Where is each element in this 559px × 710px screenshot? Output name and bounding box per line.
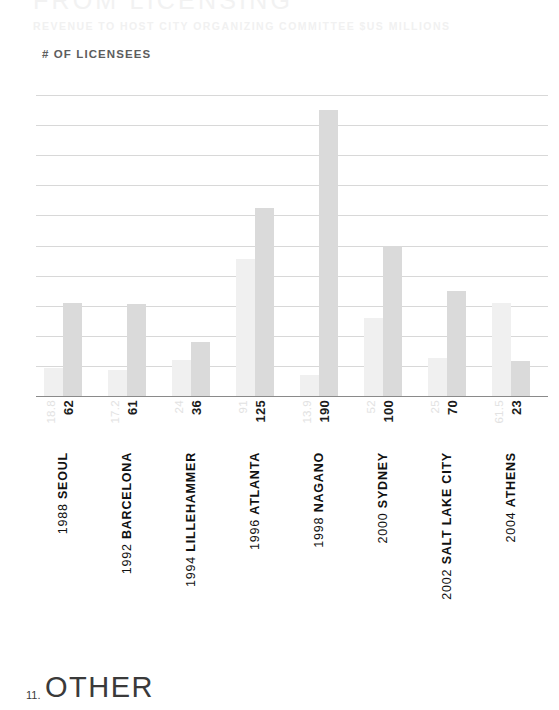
category-label-atlanta: 1996 ATLANTA xyxy=(248,452,262,550)
bar-revenue xyxy=(492,303,511,396)
bar-revenue xyxy=(172,360,191,396)
value-label-licensees: 190 xyxy=(317,400,332,423)
value-label-group: 61.523 xyxy=(492,400,530,448)
value-label-revenue: 17.2 xyxy=(109,400,121,424)
bar-revenue xyxy=(44,368,63,396)
category-city: ATHENS xyxy=(504,452,518,507)
value-label-licensees: 62 xyxy=(61,400,76,415)
bar-revenue xyxy=(428,358,447,396)
bar-group xyxy=(172,95,210,396)
category-year: 2002 xyxy=(440,564,454,599)
value-label-licensees: 100 xyxy=(381,400,396,423)
bar-revenue xyxy=(108,370,127,396)
bar-group xyxy=(428,95,466,396)
category-label-athens: 2004 ATHENS xyxy=(504,452,518,543)
value-label-group: 17.261 xyxy=(108,400,146,448)
category-label-sydney: 2000 SYDNEY xyxy=(376,452,390,544)
value-label-revenue: 91 xyxy=(237,400,249,413)
category-city: NAGANO xyxy=(312,452,326,512)
bar-licensees xyxy=(511,361,530,396)
value-label-revenue: 25 xyxy=(429,400,441,413)
bar-revenue xyxy=(364,318,383,396)
category-year: 2000 xyxy=(376,508,390,543)
bar-licensees xyxy=(191,342,210,396)
value-label-revenue: 24 xyxy=(173,400,185,413)
value-label-revenue: 18.8 xyxy=(45,400,57,424)
category-city: BARCELONA xyxy=(120,452,134,539)
value-label-group: 2570 xyxy=(428,400,466,448)
value-label-licensees: 61 xyxy=(125,400,140,415)
page-title: FROM LICENSING xyxy=(33,0,293,15)
bar-group xyxy=(236,95,274,396)
bar-group xyxy=(364,95,402,396)
footer: 11. OTHER xyxy=(0,665,559,710)
footer-section-number: 11. xyxy=(26,689,40,701)
category-year: 1988 xyxy=(56,499,70,534)
bar-group xyxy=(44,95,82,396)
bar-group xyxy=(108,95,146,396)
value-label-licensees: 125 xyxy=(253,400,268,423)
chart-plot-area xyxy=(36,95,548,396)
value-label-group: 52100 xyxy=(364,400,402,448)
value-label-group: 18.862 xyxy=(44,400,82,448)
value-label-revenue: 52 xyxy=(365,400,377,413)
bar-licensees xyxy=(319,110,338,396)
category-label-lillehammer: 1994 LILLEHAMMER xyxy=(184,452,198,587)
category-year: 1998 xyxy=(312,512,326,547)
value-label-group: 91125 xyxy=(236,400,274,448)
bar-value-labels: 18.86217.26124369112513.919052100257061.… xyxy=(36,400,548,448)
value-label-revenue: 61.5 xyxy=(493,400,505,424)
bar-licensees xyxy=(63,303,82,396)
category-city: LILLEHAMMER xyxy=(184,452,198,552)
value-label-licensees: 23 xyxy=(509,400,524,415)
bar-licensees xyxy=(383,246,402,397)
value-label-licensees: 36 xyxy=(189,400,204,415)
x-axis-category-labels: 1988 SEOUL1992 BARCELONA1994 LILLEHAMMER… xyxy=(36,452,548,597)
bar-revenue xyxy=(236,259,255,396)
category-label-nagano: 1998 NAGANO xyxy=(312,452,326,548)
category-label-salt-lake-city: 2002 SALT LAKE CITY xyxy=(440,452,454,600)
category-year: 1996 xyxy=(248,515,262,550)
category-city: SYDNEY xyxy=(376,452,390,508)
chart-subtitle: REVENUE TO HOST CITY ORGANIZING COMMITTE… xyxy=(33,20,450,32)
category-label-seoul: 1988 SEOUL xyxy=(56,452,70,534)
bar-revenue xyxy=(300,375,319,396)
category-label-barcelona: 1992 BARCELONA xyxy=(120,452,134,574)
category-year: 2004 xyxy=(504,507,518,542)
bar-licensees xyxy=(255,208,274,396)
series-legend-label: # OF LICENSEES xyxy=(42,48,151,60)
axis-baseline xyxy=(36,396,548,397)
category-city: SEOUL xyxy=(56,452,70,499)
category-city: ATLANTA xyxy=(248,452,262,515)
category-year: 1994 xyxy=(184,552,198,587)
bar-licensees xyxy=(447,291,466,396)
footer-section-label: OTHER xyxy=(45,671,154,704)
bar-group xyxy=(492,95,530,396)
category-city: SALT LAKE CITY xyxy=(440,452,454,564)
value-label-group: 2436 xyxy=(172,400,210,448)
bar-group xyxy=(300,95,338,396)
bar-licensees xyxy=(127,304,146,396)
value-label-licensees: 70 xyxy=(445,400,460,415)
value-label-group: 13.9190 xyxy=(300,400,338,448)
category-year: 1992 xyxy=(120,539,134,574)
value-label-revenue: 13.9 xyxy=(301,400,313,424)
